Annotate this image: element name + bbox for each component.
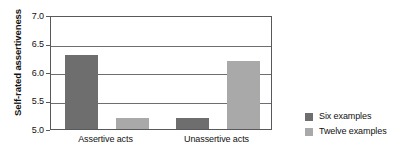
legend-item: Twelve examples: [305, 125, 387, 138]
bar-chart-figure: Self-rated assertiveness 7.06.56.05.55.0…: [0, 0, 404, 162]
bar: [176, 118, 209, 129]
y-axis-tick-label: 7.0: [14, 12, 44, 21]
bar: [65, 55, 98, 129]
y-axis-tick-mark: [46, 130, 50, 131]
y-axis-tick-label: 6.0: [14, 69, 44, 78]
plot-area: [50, 16, 272, 130]
x-axis-category-label: Unassertive acts: [167, 134, 267, 144]
y-axis-tick-label: 5.0: [14, 126, 44, 135]
bar: [227, 61, 260, 129]
gridline: [51, 46, 271, 47]
chart-legend: Six examplesTwelve examples: [305, 110, 387, 140]
legend-item: Six examples: [305, 110, 387, 123]
legend-swatch-icon: [305, 113, 313, 121]
y-axis-tick-label: 5.5: [14, 97, 44, 106]
legend-swatch-icon: [305, 128, 313, 136]
x-axis-category-label: Assertive acts: [56, 134, 156, 144]
legend-label: Twelve examples: [319, 127, 387, 136]
y-axis-tick-label: 6.5: [14, 40, 44, 49]
bar: [116, 118, 149, 129]
legend-label: Six examples: [319, 112, 371, 121]
